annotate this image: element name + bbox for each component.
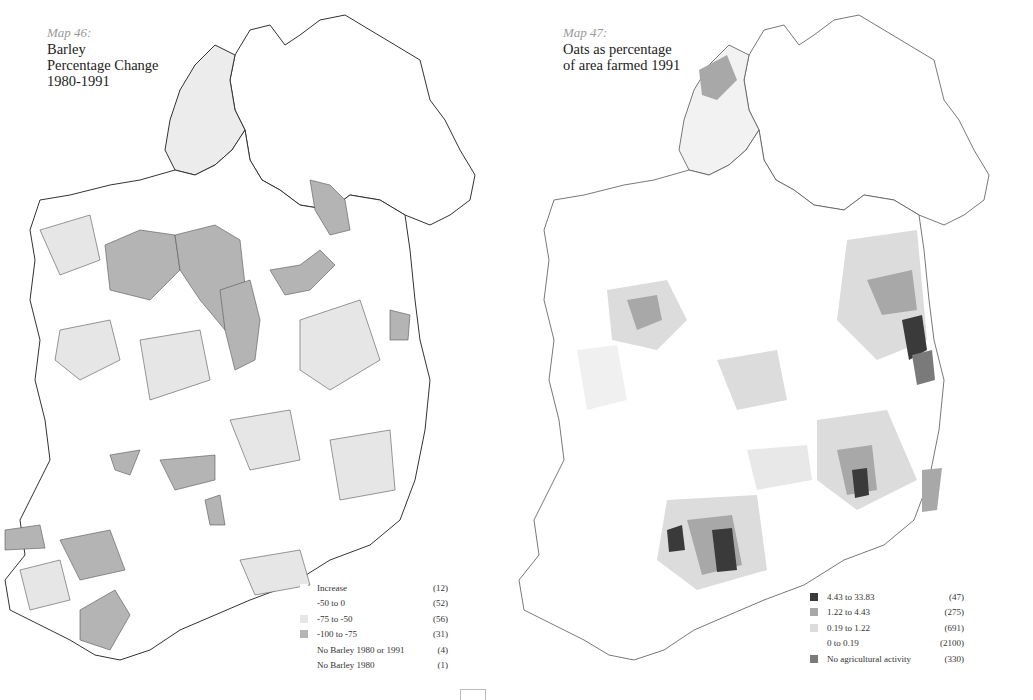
legend-label: -100 to -75: [317, 629, 433, 639]
map-46-title-block: Map 46: Barley Percentage Change 1980-19…: [47, 25, 159, 89]
legend-count: (56): [433, 614, 448, 624]
legend-count: (4): [438, 645, 449, 655]
legend-row: -75 to -50 (56): [300, 611, 448, 627]
map-46-panel: Map 46: Barley Percentage Change 1980-19…: [0, 0, 516, 696]
legend-label: -50 to 0: [317, 598, 433, 608]
map-46-title-line-2: Percentage Change: [47, 57, 159, 73]
legend-row: 1.22 to 4.43 (275): [810, 605, 964, 621]
legend-row: -100 to -75 (31): [300, 627, 448, 643]
legend-swatch: [810, 608, 818, 616]
legend-row: 0.19 to 1.22 (691): [810, 620, 964, 636]
map-47-legend: 4.43 to 33.83 (47) 1.22 to 4.43 (275) 0.…: [810, 589, 964, 667]
legend-label: Increase: [317, 583, 433, 593]
legend-row: 4.43 to 33.83 (47): [810, 589, 964, 605]
legend-label: 0.19 to 1.22: [827, 623, 945, 633]
legend-swatch: [300, 661, 308, 669]
legend-row: No Barley 1980 (1): [300, 658, 448, 674]
legend-label: No Barley 1980 or 1991: [317, 645, 438, 655]
map-46-title-line-1: Barley: [47, 41, 159, 57]
legend-row: Increase (12): [300, 580, 448, 596]
legend-count: (47): [949, 592, 964, 602]
legend-swatch: [810, 655, 818, 663]
legend-count: (2100): [940, 638, 964, 648]
legend-count: (275): [945, 607, 965, 617]
legend-count: (1): [438, 660, 449, 670]
map-46-number: Map 46:: [47, 25, 159, 41]
map-47-number: Map 47:: [563, 25, 680, 41]
legend-label: 1.22 to 4.43: [827, 607, 945, 617]
page-number-box: [460, 689, 486, 700]
legend-label: No agricultural activity: [827, 654, 945, 664]
legend-count: (52): [433, 598, 448, 608]
legend-count: (12): [433, 583, 448, 593]
legend-label: 4.43 to 33.83: [827, 592, 949, 602]
legend-count: (691): [945, 623, 965, 633]
legend-label: 0 to 0.19: [827, 638, 940, 648]
legend-count: (330): [945, 654, 965, 664]
legend-row: -50 to 0 (52): [300, 596, 448, 612]
legend-swatch: [300, 615, 308, 623]
legend-label: -75 to -50: [317, 614, 433, 624]
legend-label: No Barley 1980: [317, 660, 438, 670]
map-46-title-line-3: 1980-1991: [47, 73, 159, 89]
legend-swatch: [810, 593, 818, 601]
legend-swatch: [300, 599, 308, 607]
legend-count: (31): [433, 629, 448, 639]
legend-swatch: [300, 630, 308, 638]
legend-swatch: [810, 639, 818, 647]
legend-swatch: [810, 624, 818, 632]
legend-row: No Barley 1980 or 1991 (4): [300, 642, 448, 658]
legend-row: No agricultural activity (330): [810, 651, 964, 667]
legend-row: 0 to 0.19 (2100): [810, 636, 964, 652]
map-47-title-line-1: Oats as percentage: [563, 41, 680, 57]
map-46-legend: Increase (12) -50 to 0 (52) -75 to -50 (…: [300, 580, 448, 673]
legend-swatch: [300, 584, 308, 592]
legend-swatch: [300, 646, 308, 654]
map-47-panel: Map 47: Oats as percentage of area farme…: [517, 0, 1033, 696]
map-47-title-line-2: of area farmed 1991: [563, 57, 680, 73]
map-47-title-block: Map 47: Oats as percentage of area farme…: [563, 25, 680, 73]
